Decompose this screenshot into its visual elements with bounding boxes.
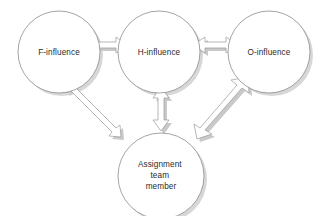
- node-o-influence[interactable]: O-influence: [228, 11, 310, 93]
- assignment-label-line-3: member: [146, 182, 177, 191]
- node-assignment-team-member[interactable]: Assignment team member: [118, 133, 204, 216]
- node-f-influence[interactable]: F-influence: [18, 11, 100, 93]
- o-influence-label: O-influence: [248, 48, 291, 57]
- o-assignment-connector[interactable]: [194, 77, 249, 139]
- f-influence-label: F-influence: [38, 48, 80, 57]
- h-influence-label: H-influence: [138, 48, 181, 57]
- assignment-label-line-1: Assignment: [138, 160, 182, 169]
- diagram-canvas: F-influence H-influence O-influence Assi…: [0, 0, 324, 216]
- assignment-label-line-2: team: [151, 171, 170, 180]
- influence-diagram: F-influence H-influence O-influence Assi…: [0, 0, 324, 216]
- node-h-influence[interactable]: H-influence: [118, 11, 200, 93]
